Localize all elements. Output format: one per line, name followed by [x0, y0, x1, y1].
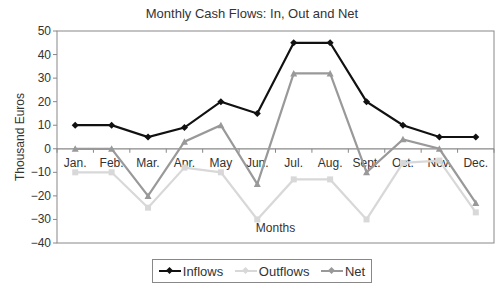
y-tick-label: −40: [31, 236, 52, 250]
legend-label: Outflows: [259, 264, 310, 279]
outflows-line-icon: [235, 270, 257, 272]
x-tick-label: Jan.: [64, 156, 87, 170]
plot-area: [57, 31, 494, 243]
y-tick-label: 40: [38, 48, 52, 62]
legend-label: Net: [345, 264, 365, 279]
x-tick-label: Dec.: [463, 156, 488, 170]
y-axis-label: Thousand Euros: [13, 93, 27, 181]
line-chart: 50403020100−10−20−30−40Jan.Feb.Mar.Apr.M…: [0, 0, 504, 299]
y-tick-label: 10: [38, 118, 52, 132]
y-tick-label: −30: [31, 212, 52, 226]
y-tick-label: −10: [31, 165, 52, 179]
y-tick-label: 30: [38, 71, 52, 85]
y-tick-label: −20: [31, 189, 52, 203]
series-line-inflows: [75, 43, 476, 137]
x-tick-label: Jul.: [284, 156, 303, 170]
x-axis-label: Months: [256, 221, 295, 235]
legend-item-net: Net: [321, 264, 365, 279]
legend-item-inflows: Inflows: [159, 264, 223, 279]
x-tick-label: Aug.: [318, 156, 343, 170]
y-tick-label: 20: [38, 95, 52, 109]
x-tick-label: Mar.: [136, 156, 159, 170]
y-tick-label: 50: [38, 24, 52, 38]
series-line-outflows: [75, 161, 476, 220]
series-line-net: [75, 73, 476, 203]
legend-item-outflows: Outflows: [235, 264, 310, 279]
net-line-icon: [321, 270, 343, 272]
legend-label: Inflows: [183, 264, 223, 279]
inflows-line-icon: [159, 270, 181, 272]
y-tick-label: 0: [44, 142, 51, 156]
x-tick-label: May: [210, 156, 233, 170]
legend: Inflows Outflows Net: [152, 259, 372, 283]
